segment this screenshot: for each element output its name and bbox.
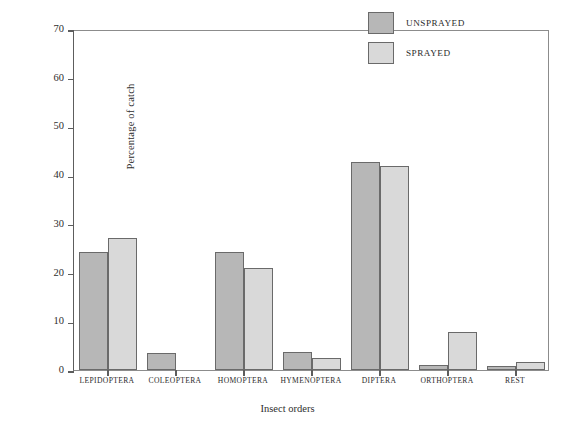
bar-rest-sprayed: [516, 362, 545, 370]
bar-chart-figure: Percentage of catch 010203040506070 LEPI…: [0, 0, 575, 438]
x-tick-label-lepidoptera: LEPIDOPTERA: [80, 376, 135, 385]
legend-swatch-sprayed: [368, 42, 394, 64]
x-tick-label-homoptera: HOMOPTERA: [218, 376, 268, 385]
y-tick-mark: [68, 79, 74, 80]
legend-label-unsprayed: UNSPRAYED: [406, 18, 465, 28]
y-tick-label: 50: [54, 120, 65, 131]
chart-legend: UNSPRAYED SPRAYED: [368, 8, 498, 68]
legend-label-sprayed: SPRAYED: [406, 48, 451, 58]
x-tick-label-rest: REST: [505, 376, 525, 385]
legend-item-unsprayed: UNSPRAYED: [368, 8, 498, 38]
legend-swatch-unsprayed: [368, 12, 394, 34]
y-tick-label: 10: [54, 315, 65, 326]
y-tick-mark: [68, 128, 74, 129]
x-tick-label-diptera: DIPTERA: [362, 376, 397, 385]
bar-orthoptera-unsprayed: [419, 365, 448, 370]
bar-diptera-unsprayed: [351, 162, 380, 370]
y-tick-label: 30: [54, 218, 65, 229]
x-tick-label-orthoptera: ORTHOPTERA: [420, 376, 473, 385]
x-tick-label-coleoptera: COLEOPTERA: [149, 376, 202, 385]
y-tick-label: 60: [54, 72, 65, 83]
y-tick-mark: [68, 371, 74, 372]
y-tick-mark: [68, 30, 74, 31]
y-tick-mark: [68, 274, 74, 275]
y-tick-mark: [68, 225, 74, 226]
bar-orthoptera-sprayed: [448, 332, 477, 370]
bar-diptera-sprayed: [380, 166, 409, 370]
bar-lepidoptera-sprayed: [108, 238, 137, 371]
y-tick-mark: [68, 177, 74, 178]
x-tick-label-hymenoptera: HYMENOPTERA: [280, 376, 341, 385]
bar-hymenoptera-sprayed: [312, 358, 341, 370]
bar-hymenoptera-unsprayed: [283, 352, 312, 370]
bar-rest-unsprayed: [487, 366, 516, 370]
legend-item-sprayed: SPRAYED: [368, 38, 498, 68]
bar-homoptera-sprayed: [244, 268, 273, 370]
y-axis-title: Percentage of catch: [125, 47, 136, 207]
y-tick-label: 40: [54, 169, 65, 180]
y-tick-label: 70: [54, 23, 65, 34]
y-tick-label: 0: [59, 364, 64, 375]
y-tick-mark: [68, 323, 74, 324]
x-axis-title: Insect orders: [0, 403, 575, 414]
bar-homoptera-unsprayed: [215, 252, 244, 370]
y-tick-label: 20: [54, 267, 65, 278]
bar-lepidoptera-unsprayed: [79, 252, 108, 370]
plot-area: Percentage of catch 010203040506070: [73, 30, 549, 371]
bar-coleoptera-unsprayed: [147, 353, 176, 370]
